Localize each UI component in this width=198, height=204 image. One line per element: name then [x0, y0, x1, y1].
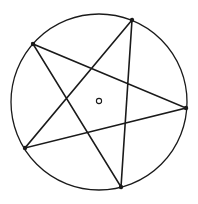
diagram-canvas — [0, 0, 198, 204]
vertex-right-dot — [184, 106, 188, 110]
vertex-left-upper-dot — [31, 42, 35, 46]
center-point-marker — [96, 98, 101, 103]
pentagram-in-circle-diagram — [0, 0, 198, 204]
vertex-top-dot — [130, 18, 134, 22]
vertex-left-lower-dot — [23, 146, 27, 150]
vertex-bottom-dot — [119, 185, 123, 189]
